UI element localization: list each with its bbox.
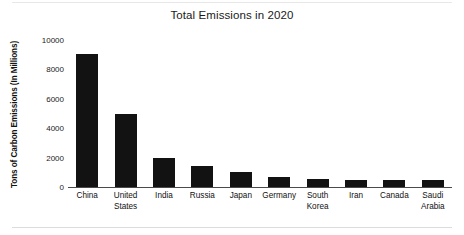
bottom-divider xyxy=(12,227,452,228)
bar-slot xyxy=(68,40,106,187)
bar-slot xyxy=(337,40,375,187)
x-axis-tick-label-line: Arabia xyxy=(414,202,452,213)
x-axis-tick-label-line: Japan xyxy=(222,191,260,202)
chart-title: Total Emissions in 2020 xyxy=(0,9,464,21)
bar[interactable] xyxy=(307,179,329,187)
x-axis-tick-label-line: Iran xyxy=(337,191,375,202)
x-axis-tick-label-line: Germany xyxy=(260,191,298,202)
x-axis-tick-label-line: Saudi xyxy=(414,191,452,202)
x-axis-tick-label: Russia xyxy=(183,191,221,202)
x-axis-tick-label: UnitedStates xyxy=(106,191,144,212)
x-axis-tick-label-line: Canada xyxy=(375,191,413,202)
y-axis-tick-label: 4000 xyxy=(28,124,64,133)
y-axis-tick-label: 0 xyxy=(28,183,64,192)
x-axis-tick-label: India xyxy=(145,191,183,202)
bar-slot xyxy=(183,40,221,187)
x-axis-tick-label: Iran xyxy=(337,191,375,202)
x-axis-tick-label-line: China xyxy=(68,191,106,202)
bar-slot xyxy=(106,40,144,187)
bar-slot xyxy=(298,40,336,187)
x-axis-tick-label: SaudiArabia xyxy=(414,191,452,212)
bar-slot xyxy=(375,40,413,187)
bar-slot xyxy=(260,40,298,187)
top-divider xyxy=(12,2,452,3)
bar[interactable] xyxy=(422,180,444,187)
x-axis-tick-label: Canada xyxy=(375,191,413,202)
bar[interactable] xyxy=(76,54,98,187)
bar[interactable] xyxy=(115,114,137,187)
bar[interactable] xyxy=(268,177,290,187)
x-axis-tick-label-line: South xyxy=(298,191,336,202)
y-axis-tick-labels: 0200040006000800010000 xyxy=(28,40,64,187)
x-axis-tick-labels: ChinaUnitedStatesIndiaRussiaJapanGermany… xyxy=(68,191,452,225)
bar[interactable] xyxy=(191,166,213,187)
bar[interactable] xyxy=(230,172,252,187)
x-axis-tick-label-line: States xyxy=(106,202,144,213)
bar-slot xyxy=(414,40,452,187)
bar-slot xyxy=(222,40,260,187)
x-axis-tick-label-line: Korea xyxy=(298,202,336,213)
y-axis-tick-label: 8000 xyxy=(28,65,64,74)
x-axis-tick-label-line: United xyxy=(106,191,144,202)
y-axis-tick-label: 2000 xyxy=(28,153,64,162)
bar-chart-figure: Total Emissions in 2020 Tons of Carbon E… xyxy=(0,0,464,235)
x-axis-tick-label: Japan xyxy=(222,191,260,202)
x-axis-tick-label-line: India xyxy=(145,191,183,202)
y-axis-tick-label: 10000 xyxy=(28,36,64,45)
x-axis-tick-label: SouthKorea xyxy=(298,191,336,212)
bar-slot xyxy=(145,40,183,187)
bar[interactable] xyxy=(383,180,405,187)
x-axis-tick-label: China xyxy=(68,191,106,202)
y-axis-tick-label: 6000 xyxy=(28,94,64,103)
bar[interactable] xyxy=(345,180,367,187)
x-axis-line xyxy=(68,187,452,188)
x-axis-tick-label: Germany xyxy=(260,191,298,202)
y-axis-title: Tons of Carbon Emissions (In Millions) xyxy=(10,35,19,195)
bar[interactable] xyxy=(153,158,175,187)
plot-area xyxy=(68,40,452,187)
x-axis-tick-label-line: Russia xyxy=(183,191,221,202)
